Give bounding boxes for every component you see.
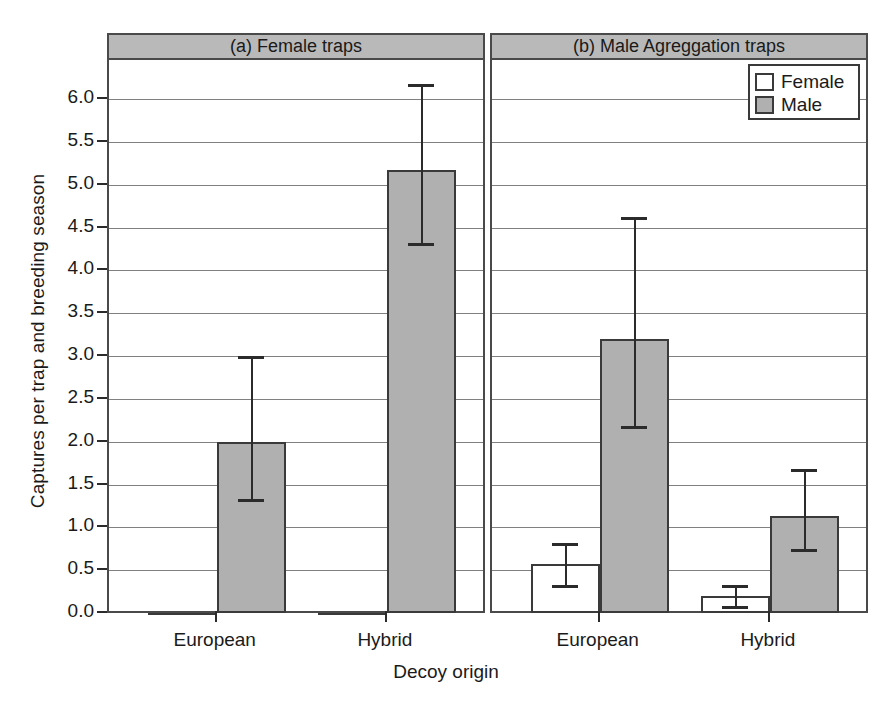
x-axis-title: Decoy origin <box>0 661 892 683</box>
error-bar-female <box>565 543 567 585</box>
y-tick-label: 6.0 <box>40 87 94 106</box>
gridline <box>492 185 866 186</box>
gridline <box>492 313 866 314</box>
panel-male-aggregation-traps: (b) Male Agreggation traps <box>490 33 868 613</box>
y-tick-label: 2.5 <box>40 387 94 406</box>
error-bar-male-cap <box>791 469 817 472</box>
panel-a-plot-area <box>109 60 483 611</box>
bar-female <box>148 613 217 615</box>
error-bar-male-cap <box>408 243 434 246</box>
y-tick-label: 4.5 <box>40 216 94 235</box>
error-bar-male-cap <box>238 499 264 502</box>
error-bar-male-cap <box>408 84 434 87</box>
error-bar-male <box>421 84 423 243</box>
y-tick-label: 0.5 <box>40 558 94 577</box>
error-bar-male <box>634 217 636 426</box>
legend-entry-female: Female <box>755 70 853 93</box>
legend-label-male: Male <box>781 95 822 114</box>
gridline <box>492 270 866 271</box>
gridline <box>492 399 866 400</box>
gridline <box>492 142 866 143</box>
gridline <box>492 442 866 443</box>
figure-root: Captures per trap and breeding season 0.… <box>0 0 892 705</box>
legend-entry-male: Male <box>755 93 853 116</box>
y-tick-label: 5.0 <box>40 173 94 192</box>
legend: Female Male <box>748 64 860 120</box>
x-tick-mark <box>385 611 387 622</box>
y-tick-label: 3.0 <box>40 344 94 363</box>
error-bar-female-cap <box>722 585 748 588</box>
panel-b-plot-area <box>492 60 866 611</box>
error-bar-female-cap <box>552 543 578 546</box>
y-tick-label: 5.5 <box>40 130 94 149</box>
bar-female <box>318 613 387 615</box>
panel-female-traps: (a) Female traps <box>107 33 485 613</box>
y-tick-label-group: 0.00.51.01.52.02.53.03.54.04.55.05.56.0 <box>34 0 94 705</box>
x-tick-mark <box>598 611 600 622</box>
error-bar-female <box>735 585 737 606</box>
legend-swatch-male-icon <box>755 96 774 114</box>
x-tick-label: Hybrid <box>740 629 795 651</box>
y-tick-label: 4.0 <box>40 258 94 277</box>
legend-swatch-female-icon <box>755 73 774 91</box>
x-tick-label: European <box>557 629 639 651</box>
error-bar-female-cap <box>552 585 578 588</box>
error-bar-male-cap <box>621 217 647 220</box>
gridline <box>492 485 866 486</box>
gridline <box>109 142 483 143</box>
gridline <box>492 228 866 229</box>
x-tick-label: Hybrid <box>357 629 412 651</box>
gridline <box>109 99 483 100</box>
y-tick-label: 2.0 <box>40 430 94 449</box>
panel-b-title: (b) Male Agreggation traps <box>492 35 866 60</box>
error-bar-male-cap <box>238 356 264 359</box>
error-bar-female-cap <box>722 606 748 609</box>
gridline <box>492 356 866 357</box>
panel-a-title: (a) Female traps <box>109 35 483 60</box>
error-bar-male-cap <box>621 426 647 429</box>
legend-label-female: Female <box>781 72 844 91</box>
error-bar-male-cap <box>791 549 817 552</box>
x-tick-mark <box>768 611 770 622</box>
x-tick-mark <box>215 611 217 622</box>
y-tick-label: 3.5 <box>40 301 94 320</box>
y-tick-label: 1.0 <box>40 515 94 534</box>
error-bar-male <box>251 356 253 499</box>
y-tick-label: 0.0 <box>40 601 94 620</box>
y-tick-label: 1.5 <box>40 473 94 492</box>
x-tick-label: European <box>174 629 256 651</box>
error-bar-male <box>804 469 806 549</box>
